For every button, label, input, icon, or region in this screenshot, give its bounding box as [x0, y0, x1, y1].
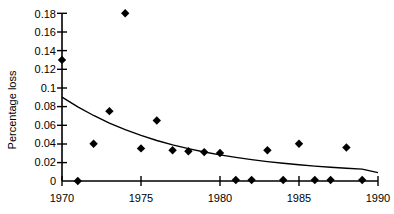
data-point-marker — [295, 140, 303, 148]
y-tick-label: 0.14 — [35, 45, 56, 57]
y-tick-label: 0.06 — [35, 119, 56, 131]
data-point-marker — [105, 107, 113, 115]
data-point-marker — [89, 140, 97, 148]
y-axis-tick-labels: 0.18 0.16 0.14 0.12 0.1 0.08 0.06 0.04 0… — [35, 8, 56, 187]
data-point-marker — [326, 176, 334, 184]
x-tick-label: 1970 — [50, 192, 74, 204]
y-tick-label: 0.18 — [35, 8, 56, 20]
data-point-marker — [279, 176, 287, 184]
y-tick-label: 0.02 — [35, 156, 56, 168]
y-tick-label: 0 — [50, 175, 56, 187]
y-tick-label: 0.12 — [35, 63, 56, 75]
data-point-marker — [58, 56, 66, 64]
data-point-marker — [153, 116, 161, 124]
data-point-marker — [137, 144, 145, 152]
data-point-marker — [168, 146, 176, 154]
y-tick-label: 0.1 — [41, 82, 56, 94]
y-tick-label: 0.04 — [35, 137, 56, 149]
data-point-marker — [358, 176, 366, 184]
data-point-marker — [311, 176, 319, 184]
data-point-marker — [200, 148, 208, 156]
data-point-marker — [74, 177, 82, 185]
y-tick-label: 0.08 — [35, 100, 56, 112]
x-tick-label: 1985 — [287, 192, 311, 204]
y-axis-title: Percentage loss — [6, 70, 18, 149]
data-point-marker — [232, 176, 240, 184]
chart-container: Percentage loss 0.18 0.16 0.14 0.12 0.1 … — [0, 0, 394, 214]
x-axis-tick-labels: 1970 1975 1980 1985 1990 — [50, 192, 390, 204]
x-tick-label: 1980 — [208, 192, 232, 204]
data-point-marker — [263, 146, 271, 154]
data-point-group — [58, 9, 367, 185]
data-point-marker — [247, 176, 255, 184]
data-point-marker — [342, 143, 350, 151]
x-tick-label: 1990 — [366, 192, 390, 204]
x-tick-label: 1975 — [129, 192, 153, 204]
data-point-marker — [121, 9, 129, 17]
y-tick-label: 0.16 — [35, 26, 56, 38]
scatter-plot-svg: Percentage loss 0.18 0.16 0.14 0.12 0.1 … — [0, 0, 394, 214]
